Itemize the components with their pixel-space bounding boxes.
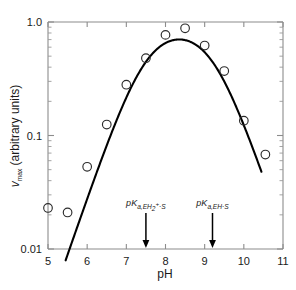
x-tick-label-6: 6 bbox=[84, 255, 90, 267]
y-tick-label-0.1: 0.1 bbox=[27, 130, 42, 142]
x-tick-label-8: 8 bbox=[162, 255, 168, 267]
chart-figure: 567891011 0.010.11.0 pH vmax (arbitrary … bbox=[0, 0, 296, 290]
y-axis-units: (arbitrary units) bbox=[8, 85, 22, 169]
x-tick-label-10: 10 bbox=[238, 255, 250, 267]
y-tick-label-1.0: 1.0 bbox=[27, 16, 42, 28]
y-axis-subscript: max bbox=[16, 168, 23, 181]
x-tick-label-7: 7 bbox=[123, 255, 129, 267]
x-tick-label-9: 9 bbox=[202, 255, 208, 267]
y-tick-label-0.01: 0.01 bbox=[21, 243, 42, 255]
x-axis-title: pH bbox=[157, 267, 172, 281]
x-tick-label-11: 11 bbox=[277, 255, 288, 267]
x-tick-label-5: 5 bbox=[45, 255, 51, 267]
ph-rate-profile-chart: 567891011 0.010.11.0 pH vmax (arbitrary … bbox=[0, 0, 296, 290]
